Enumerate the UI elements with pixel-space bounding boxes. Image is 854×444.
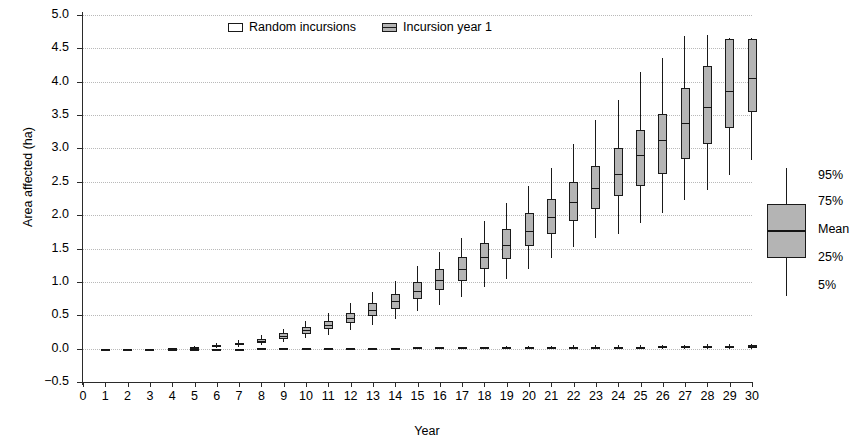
box-whisker xyxy=(547,15,556,382)
x-axis-tick xyxy=(440,382,441,387)
mean-line xyxy=(636,155,645,156)
box-whisker xyxy=(681,15,690,382)
y-axis-tick-label: −0.5 xyxy=(25,374,69,388)
x-axis-tick xyxy=(150,382,151,387)
x-axis-tick-label: 0 xyxy=(72,389,94,403)
y-axis-tick-label: 3.0 xyxy=(25,140,69,154)
box-whisker xyxy=(480,15,489,382)
box-whisker xyxy=(614,15,623,382)
x-axis-tick-label: 22 xyxy=(563,389,585,403)
x-axis-tick xyxy=(261,382,262,387)
box-whisker xyxy=(190,15,199,382)
mean-line xyxy=(413,291,422,292)
x-axis-tick xyxy=(551,382,552,387)
y-axis-tick xyxy=(77,249,83,250)
mean-line xyxy=(547,217,556,218)
legend-item: Incursion year 1 xyxy=(382,20,492,34)
box-whisker xyxy=(168,15,177,382)
mean-line xyxy=(302,330,311,331)
boxplot-key: 95%75%Mean25%5% xyxy=(762,168,852,296)
x-axis-tick-label: 15 xyxy=(407,389,429,403)
mean-line xyxy=(368,310,377,311)
box-whisker xyxy=(502,15,511,382)
mean-line xyxy=(190,347,199,348)
mean-line xyxy=(658,140,667,141)
x-axis-tick xyxy=(663,382,664,387)
mean-line xyxy=(614,174,623,175)
x-axis-tick xyxy=(83,382,84,387)
y-axis-tick-label: 4.0 xyxy=(25,74,69,88)
mean-line xyxy=(748,78,757,79)
x-axis-tick xyxy=(529,382,530,387)
y-axis-tick xyxy=(77,148,83,149)
box-whisker xyxy=(324,15,333,382)
box-iqr xyxy=(748,39,757,112)
x-axis-tick-label: 5 xyxy=(184,389,206,403)
x-axis-tick-label: 27 xyxy=(674,389,696,403)
mean-line xyxy=(235,344,244,345)
y-axis-tick xyxy=(77,48,83,49)
y-axis-tick xyxy=(77,182,83,183)
y-axis-tick-label: 2.5 xyxy=(25,174,69,188)
x-axis-tick xyxy=(618,382,619,387)
x-axis-tick-label: 1 xyxy=(94,389,116,403)
x-axis-tick-label: 28 xyxy=(696,389,718,403)
box-whisker xyxy=(748,15,757,382)
box-whisker xyxy=(346,15,355,382)
mean-line xyxy=(458,269,467,270)
mean-line xyxy=(435,280,444,281)
x-axis-tick xyxy=(172,382,173,387)
y-axis-tick xyxy=(77,349,83,350)
box-iqr xyxy=(725,39,734,128)
mean-line xyxy=(703,107,712,108)
x-axis-tick xyxy=(418,382,419,387)
legend-item: Random incursions xyxy=(228,20,356,34)
x-axis-tick-label: 14 xyxy=(384,389,406,403)
plot-area: 5.04.54.03.53.02.52.01.51.00.50.0−0.5012… xyxy=(83,15,752,382)
box-iqr xyxy=(525,213,534,246)
x-axis-tick-label: 17 xyxy=(451,389,473,403)
y-axis-tick xyxy=(77,15,83,16)
x-axis-tick xyxy=(128,382,129,387)
x-axis-tick-label: 12 xyxy=(340,389,362,403)
x-axis-tick-label: 3 xyxy=(139,389,161,403)
y-axis-tick-label: 0.5 xyxy=(25,307,69,321)
mean-line xyxy=(279,336,288,337)
y-axis-tick-label: 5.0 xyxy=(25,7,69,21)
x-axis-tick-label: 20 xyxy=(518,389,540,403)
box-whisker xyxy=(302,15,311,382)
box-iqr xyxy=(703,66,712,145)
x-axis-tick-label: 7 xyxy=(228,389,250,403)
box-iqr xyxy=(636,130,645,186)
box-whisker xyxy=(458,15,467,382)
x-axis-tick-label: 10 xyxy=(295,389,317,403)
box-iqr xyxy=(502,229,511,259)
y-axis-tick-label: 4.5 xyxy=(25,40,69,54)
box-whisker xyxy=(525,15,534,382)
x-axis-tick-label: 21 xyxy=(540,389,562,403)
mean-line xyxy=(346,318,355,319)
x-axis-tick xyxy=(641,382,642,387)
mean-line xyxy=(101,349,110,350)
x-axis-tick xyxy=(707,382,708,387)
mean-line xyxy=(145,349,154,350)
y-axis-tick xyxy=(77,315,83,316)
mean-line xyxy=(725,91,734,92)
y-axis-tick xyxy=(77,215,83,216)
box-whisker xyxy=(257,15,266,382)
mean-line xyxy=(681,123,690,124)
mean-line xyxy=(212,346,221,347)
x-axis-tick-label: 4 xyxy=(161,389,183,403)
y-axis-tick-label: 3.5 xyxy=(25,107,69,121)
x-axis-tick xyxy=(574,382,575,387)
box-whisker xyxy=(435,15,444,382)
box-iqr xyxy=(591,166,600,209)
mean-line xyxy=(391,301,400,302)
x-axis-tick xyxy=(195,382,196,387)
x-axis-tick xyxy=(105,382,106,387)
box-whisker xyxy=(212,15,221,382)
x-axis-tick-label: 9 xyxy=(273,389,295,403)
box-iqr xyxy=(547,199,556,234)
x-axis-tick-label: 11 xyxy=(317,389,339,403)
x-axis-tick-label: 8 xyxy=(250,389,272,403)
